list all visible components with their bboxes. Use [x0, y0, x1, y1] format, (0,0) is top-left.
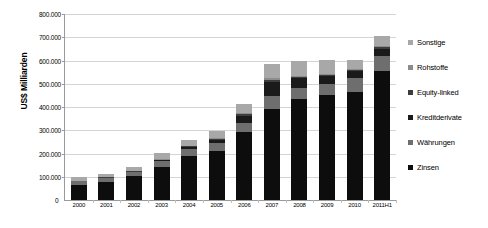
- bar-group[interactable]: [71, 177, 87, 200]
- bar-segment[interactable]: [264, 64, 280, 78]
- x-axis-tick-label: 2004: [175, 202, 203, 208]
- legend-label: Zinsen: [417, 163, 439, 172]
- bar-segment[interactable]: [236, 116, 252, 123]
- bar-segment[interactable]: [347, 78, 363, 91]
- bar-segment[interactable]: [319, 84, 335, 95]
- bar-group[interactable]: [98, 174, 114, 200]
- x-axis-tick-label: 2005: [203, 202, 231, 208]
- legend-label: Rohstoffe: [417, 63, 448, 72]
- bar-segment[interactable]: [291, 61, 307, 76]
- legend-swatch-icon: [408, 90, 413, 95]
- bar-segment[interactable]: [319, 95, 335, 200]
- legend-swatch-icon: [408, 65, 413, 70]
- bar-segment[interactable]: [347, 92, 363, 200]
- bar-group[interactable]: [374, 36, 390, 200]
- bar-group[interactable]: [126, 167, 142, 200]
- bar-segment[interactable]: [154, 167, 170, 200]
- bar-segment[interactable]: [209, 131, 225, 138]
- y-axis-tick-label: 400.000: [39, 104, 61, 111]
- legend-swatch-icon: [408, 40, 413, 45]
- x-axis-tick-label: 2003: [148, 202, 176, 208]
- y-axis-tick-label: 200.000: [39, 150, 61, 157]
- legend-label: Kreditderivate: [417, 113, 462, 122]
- x-axis-tick-label: 2001: [93, 202, 121, 208]
- x-axis-tick-label: 2011H1: [368, 202, 396, 208]
- bar-segment[interactable]: [319, 76, 335, 84]
- bar-segment[interactable]: [209, 143, 225, 150]
- y-axis-tick-label: 300.000: [39, 127, 61, 134]
- bars-layer: [65, 14, 396, 200]
- bar-segment[interactable]: [347, 60, 363, 69]
- legend-label: Währungen: [417, 138, 455, 147]
- bar-group[interactable]: [181, 140, 197, 200]
- bar-segment[interactable]: [291, 78, 307, 88]
- bar-group[interactable]: [347, 60, 363, 200]
- bar-segment[interactable]: [181, 149, 197, 156]
- bar-group[interactable]: [319, 60, 335, 200]
- y-axis-tick-label: 700.000: [39, 34, 61, 41]
- y-axis-tick-label: 600.000: [39, 57, 61, 64]
- bar-segment[interactable]: [374, 49, 390, 57]
- bar-segment[interactable]: [126, 176, 142, 200]
- legend-swatch-icon: [408, 115, 413, 120]
- bar-group[interactable]: [154, 153, 170, 200]
- bar-group[interactable]: [209, 131, 225, 200]
- bar-segment[interactable]: [236, 132, 252, 200]
- y-axis-tick-label: 100.000: [39, 173, 61, 180]
- y-axis-tick-label: 800.000: [39, 11, 61, 18]
- bar-segment[interactable]: [264, 96, 280, 109]
- x-axis-tick-label: 2007: [258, 202, 286, 208]
- x-axis-tick-label: 2009: [313, 202, 341, 208]
- legend-item[interactable]: Kreditderivate: [408, 105, 488, 130]
- x-axis-tick-label: 2000: [65, 202, 93, 208]
- legend-label: Equity-linked: [417, 88, 459, 97]
- legend-item[interactable]: Zinsen: [408, 155, 488, 180]
- legend-item[interactable]: Währungen: [408, 130, 488, 155]
- bar-segment[interactable]: [291, 99, 307, 200]
- bar-group[interactable]: [264, 64, 280, 200]
- legend-item[interactable]: Equity-linked: [408, 80, 488, 105]
- bar-segment[interactable]: [264, 82, 280, 96]
- bar-segment[interactable]: [98, 182, 114, 200]
- bar-segment[interactable]: [181, 156, 197, 200]
- bar-segment[interactable]: [236, 123, 252, 132]
- x-axis-tick-label: 2008: [286, 202, 314, 208]
- legend-item[interactable]: Rohstoffe: [408, 55, 488, 80]
- legend-label: Sonstige: [417, 38, 445, 47]
- bar-segment[interactable]: [209, 151, 225, 200]
- bar-segment[interactable]: [374, 56, 390, 71]
- chart-legend: SonstigeRohstoffeEquity-linkedKreditderi…: [408, 30, 488, 180]
- stacked-bar-chart: US$ Milliarden 100.000200.000300.000400.…: [0, 0, 488, 228]
- x-axis-tick-label: 2002: [120, 202, 148, 208]
- bar-group[interactable]: [291, 61, 307, 200]
- y-axis-tick-label: 500.000: [39, 80, 61, 87]
- bar-segment[interactable]: [347, 71, 363, 78]
- bar-segment[interactable]: [374, 36, 390, 46]
- legend-swatch-icon: [408, 140, 413, 145]
- bar-segment[interactable]: [374, 71, 390, 200]
- bar-segment[interactable]: [236, 104, 252, 113]
- legend-swatch-icon: [408, 165, 413, 170]
- plot-area: 100.000200.000300.000400.000500.000600.0…: [64, 14, 396, 201]
- x-axis-tick-label: 2006: [231, 202, 259, 208]
- x-axis-tick-label: 2010: [341, 202, 369, 208]
- bar-segment[interactable]: [291, 88, 307, 100]
- bar-segment[interactable]: [319, 60, 335, 75]
- legend-item[interactable]: Sonstige: [408, 30, 488, 55]
- bar-segment[interactable]: [71, 185, 87, 200]
- bar-group[interactable]: [236, 104, 252, 200]
- bar-segment[interactable]: [264, 109, 280, 200]
- y-axis-zero-label: 0: [55, 197, 59, 204]
- x-axis-tick-mark: [396, 200, 397, 203]
- y-axis-title: US$ Milliarden: [19, 31, 29, 131]
